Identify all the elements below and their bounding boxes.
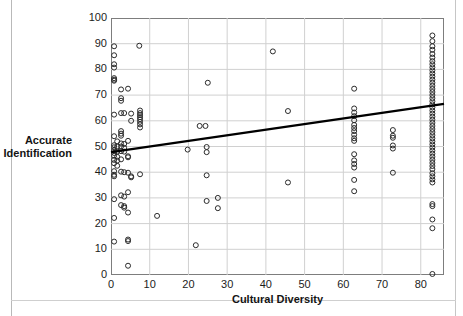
x-axis-title: Cultural Diversity	[111, 293, 444, 305]
data-point	[352, 86, 357, 91]
y-axis-tick-labels: 0102030405060708090100	[74, 18, 107, 275]
y-axis-tick-label: 60	[77, 115, 107, 126]
data-point	[270, 49, 275, 54]
x-axis-tick-label: 30	[212, 279, 242, 290]
data-point	[352, 165, 357, 170]
y-axis-tick-label: 70	[77, 89, 107, 100]
data-point	[197, 123, 202, 128]
data-point	[205, 80, 210, 85]
data-point	[204, 150, 209, 155]
data-point	[285, 109, 290, 114]
y-axis-tick-label: 50	[77, 141, 107, 152]
data-point	[155, 213, 160, 218]
y-axis-title: Accurate Identification	[2, 134, 72, 160]
x-axis-tick-label: 10	[135, 279, 165, 290]
data-point	[204, 198, 209, 203]
y-axis-tick-label: 80	[77, 63, 107, 74]
data-point	[430, 180, 435, 185]
data-point	[112, 134, 117, 139]
scatter-plot-figure: 0102030405060708090100 01020304050607080…	[0, 0, 463, 316]
data-point	[352, 152, 357, 157]
data-point	[126, 190, 131, 195]
data-point	[352, 189, 357, 194]
data-point	[285, 180, 290, 185]
data-point	[126, 210, 131, 215]
data-point	[122, 111, 127, 116]
data-point	[112, 112, 117, 117]
plot-canvas	[111, 18, 444, 275]
data-point	[112, 44, 117, 49]
x-axis-tick-label: 70	[367, 279, 397, 290]
data-point	[193, 243, 198, 248]
y-axis-tick-label: 100	[77, 12, 107, 23]
data-point	[204, 173, 209, 178]
data-point	[112, 215, 117, 220]
y-axis-tick-label: 10	[77, 243, 107, 254]
data-point	[352, 177, 357, 182]
data-point	[129, 111, 134, 116]
x-axis-tick-label: 50	[290, 279, 320, 290]
x-axis-tick-label: 60	[328, 279, 358, 290]
data-point	[204, 145, 209, 150]
data-point	[203, 123, 208, 128]
y-axis-tick-label: 40	[77, 166, 107, 177]
y-axis-title-line-1: Accurate	[2, 134, 72, 147]
data-point	[126, 138, 131, 143]
page-caption-fragment	[20, 306, 440, 316]
data-point	[430, 33, 435, 38]
data-point	[185, 147, 190, 152]
data-point	[430, 271, 435, 276]
x-axis-tick-label: 80	[406, 279, 436, 290]
x-axis-tick-label: 40	[251, 279, 281, 290]
data-point	[390, 128, 395, 133]
x-axis-tick-label: 20	[173, 279, 203, 290]
data-point	[430, 226, 435, 231]
x-axis-tick-labels: 01020304050607080	[111, 279, 444, 293]
y-axis-tick-label: 30	[77, 192, 107, 203]
data-point	[126, 86, 131, 91]
data-point	[390, 170, 395, 175]
y-axis-title-line-2: Identification	[2, 147, 72, 160]
data-point	[119, 87, 124, 92]
data-point	[112, 239, 117, 244]
data-point	[126, 263, 131, 268]
data-point	[119, 193, 124, 198]
y-axis-tick-label: 20	[77, 218, 107, 229]
data-point	[138, 125, 143, 130]
data-point	[430, 217, 435, 222]
x-axis-tick-label: 0	[96, 279, 126, 290]
y-axis-tick-label: 90	[77, 38, 107, 49]
data-point	[430, 39, 435, 44]
data-point	[112, 53, 117, 58]
data-point	[215, 206, 220, 211]
